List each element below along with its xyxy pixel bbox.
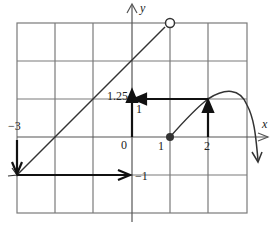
composition-arrows [12, 90, 213, 180]
label-neg3: −3 [8, 119, 21, 133]
x-axis-label: x [261, 117, 268, 131]
function-graph: y x −3 0 1 2 1 1.25 −1 [0, 0, 275, 226]
label-one-x: 1 [158, 139, 164, 153]
curve [170, 91, 258, 160]
y-axis-label: y [139, 1, 146, 15]
label-neg1: −1 [135, 169, 148, 183]
label-1-25: 1.25 [107, 89, 128, 103]
label-one-y: 1 [136, 102, 142, 116]
label-two-x: 2 [204, 139, 210, 153]
label-zero: 0 [121, 138, 127, 152]
closed-dot [166, 133, 174, 141]
open-circle [166, 19, 175, 28]
